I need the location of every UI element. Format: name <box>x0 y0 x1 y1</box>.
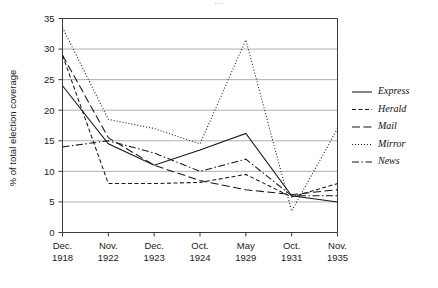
chart-figure: 05101520253035 Dec.1918Nov.1922Dec.1923O… <box>0 0 438 288</box>
chart-series <box>63 28 338 211</box>
chart-gridlines <box>63 19 338 202</box>
x-axis-tick-label: Oct.1924 <box>189 240 210 263</box>
y-axis-tick-label: 35 <box>44 13 55 24</box>
series-line-mirror <box>63 28 338 211</box>
series-line-mail <box>63 55 338 194</box>
y-axis-tick-label: 5 <box>49 196 54 207</box>
legend-label-herald: Herald <box>377 103 407 114</box>
y-axis-tick-label: 0 <box>49 227 54 238</box>
x-axis-tick-labels: Dec.1918Nov.1922Dec.1923Oct.1924May1929O… <box>52 240 348 263</box>
legend-label-news: News <box>377 155 400 166</box>
series-line-news <box>63 141 338 196</box>
y-axis-tick-label: 10 <box>44 166 55 177</box>
x-axis-tick-label: May1929 <box>235 240 256 263</box>
y-axis-ticks <box>59 19 63 233</box>
legend-label-express: Express <box>377 85 409 96</box>
x-axis-ticks <box>63 233 338 237</box>
legend-label-mirror: Mirror <box>377 138 406 149</box>
x-axis-tick-label: Oct.1931 <box>281 240 302 263</box>
x-axis-tick-label: Nov.1922 <box>98 240 119 263</box>
y-axis-tick-label: 15 <box>44 135 55 146</box>
legend-label-mail: Mail <box>377 120 397 131</box>
x-axis-tick-label: Nov.1935 <box>327 240 348 263</box>
x-axis-tick-label: Dec.1923 <box>144 240 165 263</box>
series-line-herald <box>63 55 338 197</box>
y-axis-tick-labels: 05101520253035 <box>44 13 55 238</box>
y-axis-tick-label: 30 <box>44 43 55 54</box>
chart-legend: ExpressHeraldMailMirrorNews <box>352 85 409 166</box>
plot-frame <box>63 19 338 233</box>
line-chart: 05101520253035 Dec.1918Nov.1922Dec.1923O… <box>0 0 438 288</box>
y-axis-tick-label: 25 <box>44 74 55 85</box>
x-axis-tick-label: Dec.1918 <box>52 240 73 263</box>
y-axis-title: % of total election coverage <box>7 70 18 187</box>
series-line-express <box>63 86 338 202</box>
y-axis-tick-label: 20 <box>44 105 55 116</box>
